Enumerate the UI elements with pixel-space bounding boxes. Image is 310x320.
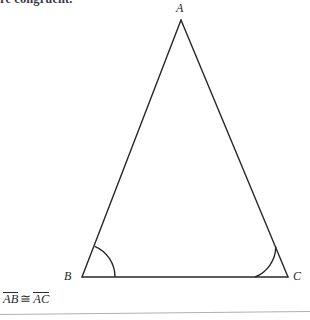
vertex-label-a: A	[176, 2, 183, 14]
side-ab	[82, 20, 181, 277]
vertex-label-c: C	[293, 270, 301, 282]
figure-page: re congruent. A B C AB≅AC	[0, 0, 310, 320]
triangle-diagram	[0, 0, 310, 320]
segment-ac-label: AC	[33, 292, 49, 307]
side-ac	[181, 20, 288, 277]
angle-arc-b	[95, 246, 115, 277]
congruence-statement: AB≅AC	[3, 292, 49, 307]
vertex-label-b: B	[64, 270, 71, 282]
angle-arc-c	[255, 247, 276, 277]
bottom-divider	[0, 306, 310, 318]
segment-ab-label: AB	[3, 292, 18, 307]
congruence-symbol: ≅	[18, 293, 33, 306]
